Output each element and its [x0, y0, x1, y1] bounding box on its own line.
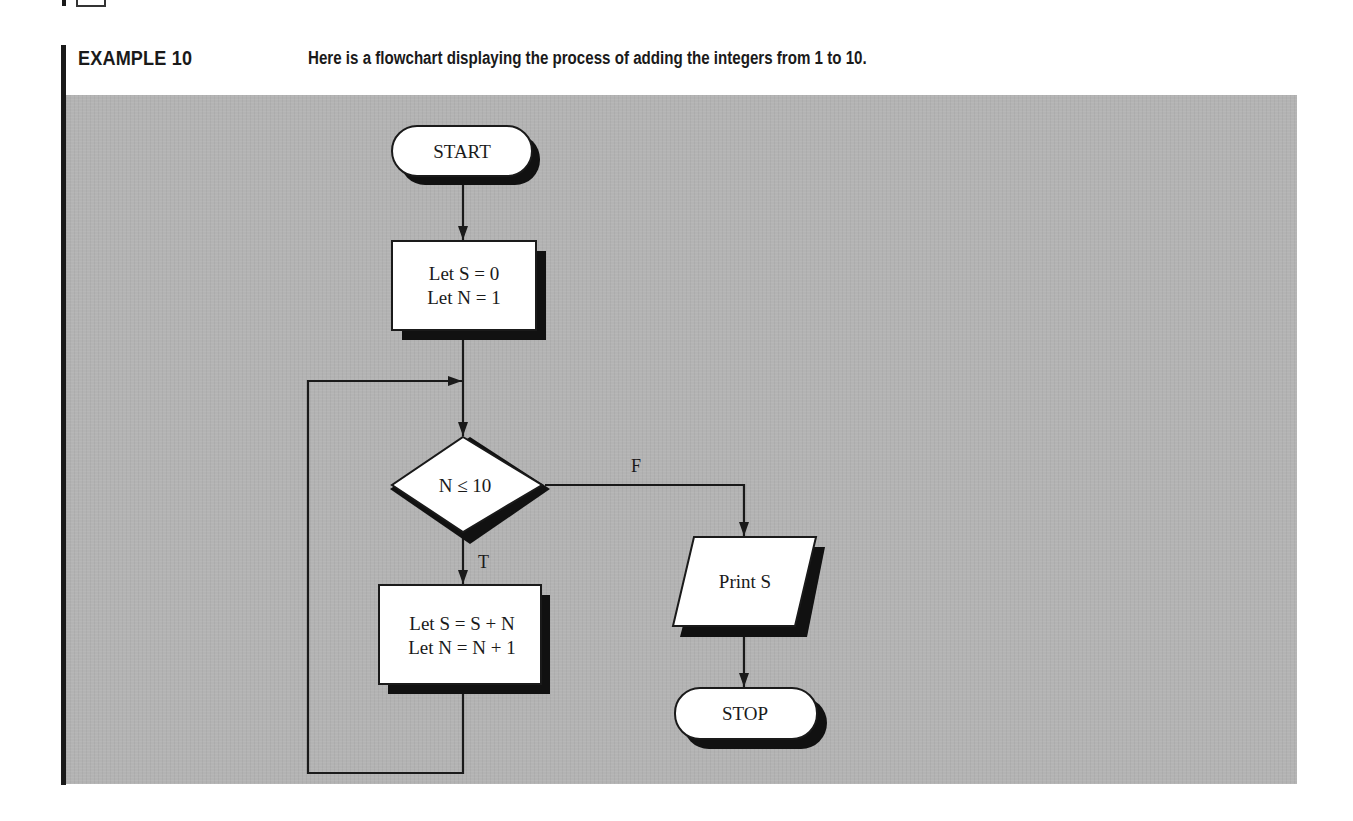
node-init-line-1: Let S = 0: [429, 263, 499, 284]
edge-label-true: T: [478, 552, 489, 572]
node-init: Let S = 0 Let N = 1: [392, 241, 546, 340]
node-decision-label: N ≤ 10: [439, 475, 492, 496]
node-decision: N ≤ 10: [390, 437, 550, 544]
node-output-label: Print S: [719, 571, 771, 592]
node-stop-label: STOP: [722, 703, 768, 724]
flowchart: START Let S = 0 Let N = 1 N ≤ 10 T F Let…: [0, 0, 1353, 821]
node-init-line-2: Let N = 1: [427, 287, 501, 308]
node-stop: STOP: [675, 688, 827, 749]
node-start-label: START: [433, 141, 491, 162]
node-loop-body-line-1: Let S = S + N: [409, 613, 515, 634]
node-loop-body-line-2: Let N = N + 1: [408, 637, 515, 658]
edge-decision-false: [545, 485, 744, 536]
edge-label-false: F: [631, 456, 641, 476]
edge-loop-back: [308, 381, 463, 773]
node-loop-body: Let S = S + N Let N = N + 1: [379, 585, 550, 694]
node-output: Print S: [673, 537, 825, 637]
node-start: START: [392, 126, 540, 185]
